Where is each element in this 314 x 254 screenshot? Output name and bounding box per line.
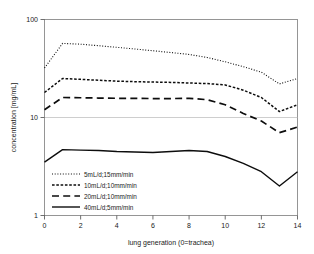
x-tick-label-10: 10	[221, 222, 229, 229]
legend-label-5ml-15mm: 5mL/d;15mm/min	[84, 171, 134, 178]
x-tick-label-0: 0	[43, 222, 47, 229]
y-tick-label-100: 100	[26, 16, 38, 23]
x-tick-label-2: 2	[79, 222, 83, 229]
y-axis-title: concentration [mg/mL]	[10, 83, 18, 152]
x-tick-label-14: 14	[294, 222, 302, 229]
x-axis-title: lung generation (0=trachea)	[128, 239, 214, 247]
legend-label-10ml-10mm: 10mL/d;10mm/min	[84, 182, 137, 189]
legend-label-20ml-10mm: 20mL/d;10mm/min	[84, 193, 137, 200]
chart-svg: 100 10 1 0 2 4 6 8 10 12 14 lung generat…	[0, 0, 314, 254]
y-tick-label-1: 1	[34, 212, 38, 219]
x-tick-label-8: 8	[187, 222, 191, 229]
chart-figure: 100 10 1 0 2 4 6 8 10 12 14 lung generat…	[0, 0, 314, 254]
y-tick-label-10: 10	[30, 114, 38, 121]
legend-label-40ml-5mm: 40mL/d;5mm/min	[84, 204, 134, 211]
x-tick-label-6: 6	[151, 222, 155, 229]
x-tick-label-4: 4	[115, 222, 119, 229]
x-tick-label-12: 12	[257, 222, 265, 229]
